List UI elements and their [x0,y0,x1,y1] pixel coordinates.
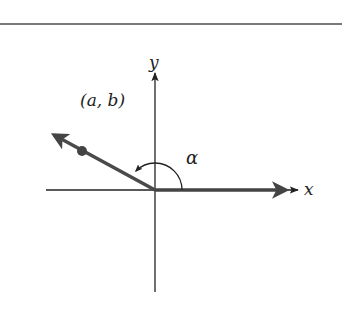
angle-label: α [186,147,198,168]
point-dot [77,146,87,156]
point-label: (a, b) [80,90,125,110]
terminal-side-vector [54,135,155,190]
angle-arc [136,163,182,190]
y-axis-label: y [148,52,159,72]
x-axis-label: x [304,179,314,199]
vector-angle-diagram: x y (a, b) α [0,0,342,320]
